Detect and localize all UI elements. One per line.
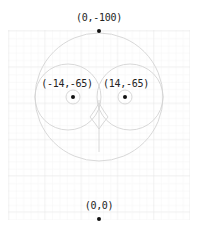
label-left-eye: (-14,-65) bbox=[41, 78, 93, 90]
point-left-eye bbox=[71, 95, 75, 99]
label-origin: (0,0) bbox=[85, 200, 114, 212]
diagram-canvas bbox=[0, 0, 207, 234]
point-right-eye bbox=[123, 95, 127, 99]
point-origin bbox=[97, 217, 101, 221]
label-top: (0,-100) bbox=[76, 12, 122, 24]
point-top bbox=[97, 29, 101, 33]
label-right-eye: (14,-65) bbox=[103, 78, 149, 90]
